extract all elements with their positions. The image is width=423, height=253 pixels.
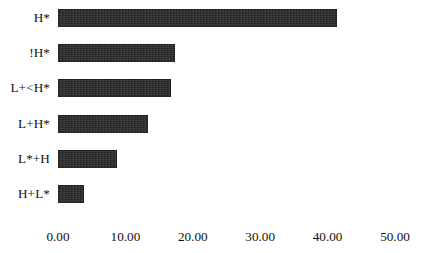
- bar-fill: [58, 44, 175, 62]
- x-tick-label: 10.00: [95, 229, 155, 244]
- bar-category-label: L+<H*: [0, 79, 50, 97]
- bar-category-label: !H*: [0, 44, 50, 62]
- bar-track: [58, 150, 423, 168]
- bar-row: L+H*: [0, 115, 423, 133]
- x-tick-label: 0.00: [28, 229, 88, 244]
- x-tick-label: 20.00: [163, 229, 223, 244]
- bar-track: [58, 115, 423, 133]
- bar-chart: H*!H*L+<H*L+H*L*+HH+L* 0.0010.0020.0030.…: [0, 0, 423, 253]
- bar-fill: [58, 150, 117, 168]
- x-tick-label: 50.00: [365, 229, 423, 244]
- x-tick-label: 30.00: [230, 229, 290, 244]
- bar-row: H+L*: [0, 185, 423, 203]
- bar-category-label: L*+H: [0, 150, 50, 168]
- x-tick-label: 40.00: [298, 229, 358, 244]
- bar-track: [58, 185, 423, 203]
- bar-track: [58, 44, 423, 62]
- x-axis: 0.0010.0020.0030.0040.0050.00: [0, 220, 423, 253]
- bar-fill: [58, 115, 148, 133]
- bar-fill: [58, 185, 84, 203]
- bar-category-label: H+L*: [0, 185, 50, 203]
- bar-row: !H*: [0, 44, 423, 62]
- plot-area: H*!H*L+<H*L+H*L*+HH+L*: [0, 0, 423, 220]
- bar-fill: [58, 79, 171, 97]
- bar-fill: [58, 9, 337, 27]
- bar-category-label: L+H*: [0, 115, 50, 133]
- bar-track: [58, 9, 423, 27]
- bar-row: L+<H*: [0, 79, 423, 97]
- bar-row: H*: [0, 9, 423, 27]
- bar-category-label: H*: [0, 9, 50, 27]
- bar-track: [58, 79, 423, 97]
- bar-row: L*+H: [0, 150, 423, 168]
